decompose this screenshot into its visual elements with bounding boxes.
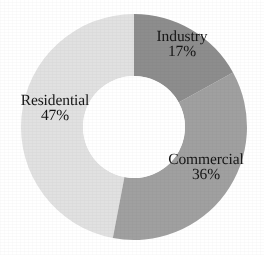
- donut-chart: Industry 17% Commercial 36% Residential …: [0, 0, 264, 255]
- slice-label-residential: Residential 47%: [2, 93, 108, 124]
- slice-label-industry-value: 17%: [139, 44, 225, 60]
- chart-page: Industry 17% Commercial 36% Residential …: [0, 0, 264, 255]
- slice-label-residential-value: 47%: [2, 108, 108, 124]
- slice-label-commercial: Commercial 36%: [152, 152, 260, 183]
- slice-label-industry: Industry 17%: [139, 29, 225, 60]
- slice-label-commercial-value: 36%: [152, 167, 260, 183]
